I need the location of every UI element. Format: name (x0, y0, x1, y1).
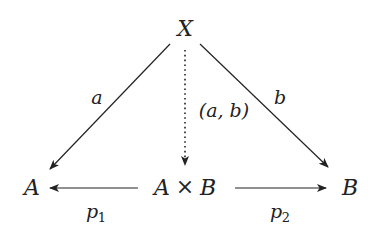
product-diagram: X A A × B B a b (a, b) p 1 p 2 (0, 0, 368, 232)
arrow-a (50, 44, 170, 169)
node-product: A × B (152, 174, 216, 200)
svg-text:p: p (270, 200, 282, 222)
label-p2: p 2 (270, 200, 290, 225)
svg-text:2: 2 (282, 210, 290, 225)
node-b: B (341, 175, 358, 200)
node-product-right: B (199, 175, 216, 200)
node-product-times: × (176, 174, 194, 199)
label-b: b (274, 86, 286, 108)
node-a: A (22, 175, 40, 200)
node-x: X (175, 16, 194, 41)
svg-text:1: 1 (98, 210, 106, 225)
svg-text:p: p (86, 200, 98, 222)
label-ab: (a, b) (199, 99, 249, 121)
node-product-left: A (152, 175, 170, 200)
label-p1: p 1 (86, 200, 106, 225)
label-a: a (91, 86, 102, 108)
